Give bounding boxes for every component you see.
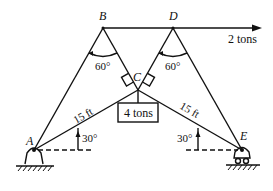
angle-arc-B (89, 53, 117, 57)
statics-diagram: B D C A E 60° 60° 30° 30° 15 ft 15 ft 2 … (0, 0, 273, 191)
angle-arrow-E (196, 131, 201, 137)
joint-B (102, 27, 105, 30)
angle-label-B: 60° (95, 60, 110, 72)
angle-arc-D (159, 53, 187, 57)
length-label-CE: 15 ft (178, 99, 202, 120)
angle-label-E: 30° (177, 132, 192, 144)
length-label-AC: 15 ft (71, 105, 95, 126)
label-E: E (239, 129, 248, 143)
joint-D (172, 27, 175, 30)
roller-wheel-1 (236, 159, 241, 164)
label-A: A (25, 134, 34, 148)
label-D: D (168, 9, 178, 23)
angle-arrow-A (76, 131, 81, 137)
label-B: B (99, 9, 107, 23)
label-C: C (133, 70, 142, 84)
weight-label: 4 tons (124, 106, 153, 120)
joint-E (240, 148, 244, 152)
ground-hatch-A (18, 166, 52, 171)
joint-A (32, 148, 36, 152)
angle-label-D: 60° (165, 60, 180, 72)
force-arrowhead (252, 25, 262, 32)
angle-label-A: 30° (82, 132, 97, 144)
roller-wheel-2 (244, 159, 249, 164)
member-CD (138, 28, 173, 90)
force-label: 2 tons (228, 32, 257, 46)
ground-hatch-E (228, 165, 257, 170)
